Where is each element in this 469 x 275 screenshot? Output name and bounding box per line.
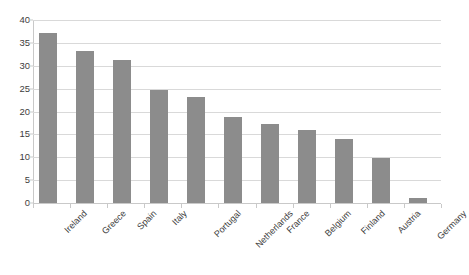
x-axis-category-label: Finland [360, 209, 387, 236]
x-axis-category-label: Germany [436, 209, 469, 242]
y-axis-tick-label: 35 [4, 38, 30, 48]
bar [298, 130, 316, 203]
x-axis-category-label: Portugal [213, 209, 243, 239]
x-axis-tick-mark [441, 204, 442, 208]
bar [261, 124, 279, 203]
x-axis-tick-mark [107, 204, 108, 208]
bar [372, 158, 390, 203]
x-axis-category-label: Greece [100, 209, 127, 236]
y-axis-tick-label: 30 [4, 61, 30, 71]
x-axis-tick-mark [218, 204, 219, 208]
x-axis-category-label: Austria [397, 209, 423, 235]
x-axis-tick-mark [181, 204, 182, 208]
x-axis-tick-mark [144, 204, 145, 208]
bar [150, 90, 168, 203]
y-axis-tick-labels: 0510152025303540 [0, 20, 30, 203]
x-axis-tick-mark [70, 204, 71, 208]
x-axis-tick-mark [33, 204, 34, 208]
x-axis-tick-mark [256, 204, 257, 208]
y-axis-tick-label: 15 [4, 130, 30, 140]
y-axis-tick-label: 40 [4, 15, 30, 25]
x-axis-category-labels: IrelandGreeceSpainItalyPortugalNetherlan… [33, 205, 441, 275]
y-axis-tick-label: 20 [4, 107, 30, 117]
x-axis-tick-mark [293, 204, 294, 208]
bar [187, 97, 205, 203]
y-axis-tick-label: 25 [4, 84, 30, 94]
y-axis-tick-label: 10 [4, 153, 30, 163]
bar [39, 33, 57, 203]
bar [224, 117, 242, 203]
x-axis-category-label: Spain [135, 209, 158, 232]
plot-area [33, 20, 441, 203]
bar [409, 198, 427, 203]
bar [76, 51, 94, 203]
bars-group [33, 20, 441, 203]
bar [113, 60, 131, 203]
x-axis-category-label: Belgium [324, 209, 353, 238]
x-axis-category-label: Ireland [63, 209, 89, 235]
x-axis-tick-mark [404, 204, 405, 208]
x-axis-category-label: Italy [171, 209, 189, 227]
bar [335, 139, 353, 203]
y-axis-tick-label: 0 [4, 198, 30, 208]
x-axis-tick-mark [330, 204, 331, 208]
x-axis-tick-mark [367, 204, 368, 208]
axis-baseline [33, 203, 441, 204]
y-axis-tick-label: 5 [4, 175, 30, 185]
